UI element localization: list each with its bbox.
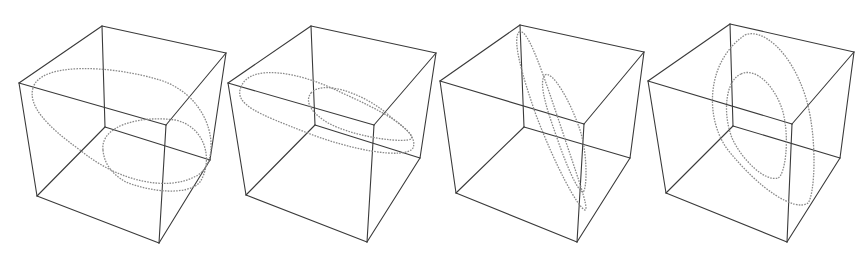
cube-edge: [19, 83, 37, 196]
cube-panel-3: [440, 25, 644, 242]
cube-edge: [246, 195, 367, 242]
cube-edge: [730, 24, 854, 52]
orbit-curve-2: [103, 119, 207, 191]
cube-edge: [246, 125, 315, 195]
cube-edge: [228, 83, 246, 195]
cube-edge: [159, 160, 210, 243]
cube-edge: [440, 81, 456, 193]
cube-edge: [440, 81, 584, 124]
cube-edge: [456, 193, 577, 242]
cube-edge: [648, 24, 730, 81]
cube-edge: [102, 26, 226, 53]
cube-edge: [440, 25, 520, 81]
orbit-curve-1: [240, 73, 414, 154]
cube-edge: [666, 193, 787, 242]
cube-edge: [102, 26, 105, 127]
cube-edge: [228, 26, 311, 83]
cube-edge: [520, 25, 644, 52]
orbit-curve-2: [726, 72, 786, 178]
cube-edge: [19, 26, 102, 83]
cube-edge: [666, 126, 733, 193]
cube-edge: [367, 158, 420, 242]
orbit-curve-2: [308, 88, 411, 141]
cube-edge: [630, 52, 644, 158]
cube-panel-2: [228, 26, 436, 242]
cube-edge: [228, 83, 374, 125]
cube-edge: [105, 127, 210, 160]
cube-panel-4: [648, 24, 854, 242]
cube-edge: [577, 124, 584, 242]
cube-panel-1: [19, 26, 226, 243]
cube-edge: [648, 81, 666, 193]
cube-edge: [792, 52, 854, 124]
cube-edge: [311, 26, 436, 53]
cube-edge: [840, 52, 854, 158]
cube-edge: [730, 24, 733, 126]
cube-edge: [787, 124, 792, 242]
cube-edge: [37, 196, 159, 243]
cube-edge: [37, 127, 105, 196]
cube-edge: [584, 52, 644, 124]
orbit-curve-2: [543, 74, 587, 192]
cube-orbit-figure: [0, 0, 865, 261]
cube-edge: [19, 83, 166, 125]
orbit-curve-1: [32, 69, 211, 184]
cube-edge: [456, 127, 524, 193]
cube-edge: [524, 127, 630, 158]
